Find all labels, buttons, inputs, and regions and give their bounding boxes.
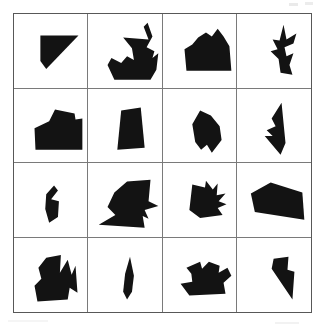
shape-r2c4-svg [237, 89, 311, 163]
shape-right-triangle-wedge [40, 36, 78, 69]
shape-r1c3-svg [163, 14, 236, 88]
shape-spiky-jagged-blob [189, 181, 226, 218]
shape-downward-dart-spike [264, 102, 285, 154]
grid-cell-r1c3 [163, 14, 237, 89]
grid-cell-r4c3 [163, 238, 237, 313]
scan-artifact-bottom-right [275, 322, 299, 324]
shape-grid-plate [13, 13, 312, 313]
shape-narrow-trapezoid [118, 107, 145, 149]
grid-cell-r3c1 [14, 163, 88, 238]
grid-cell-r4c2 [88, 238, 162, 313]
shape-r1c1-svg [14, 14, 87, 88]
shape-descending-stepped-wedge [271, 256, 294, 299]
shape-r4c3-svg [163, 238, 236, 313]
grid-cell-r1c2 [88, 14, 162, 89]
shape-angular-leaf-shield [192, 110, 221, 152]
figure-root [0, 0, 323, 329]
shape-bent-comma [45, 186, 59, 223]
shape-sailboat-zigzag [108, 23, 159, 80]
grid-cell-r2c1 [14, 89, 88, 164]
scan-artifact-top-right-1 [289, 3, 298, 6]
scan-artifact-top-right-2 [305, 2, 313, 5]
grid-cell-r3c2 [88, 163, 162, 238]
shape-thin-feather-blade [123, 256, 134, 299]
grid-cell-r4c1 [14, 238, 88, 313]
shape-tilted-quadrilateral [251, 183, 304, 220]
grid-cell-r3c3 [163, 163, 237, 238]
shape-house-mountain-pentagon [184, 29, 231, 71]
shape-r3c3-svg [163, 163, 236, 237]
shape-grid [14, 14, 311, 312]
shape-vertical-arrow-bolt [270, 25, 296, 75]
shape-r1c2-svg [88, 14, 161, 88]
grid-cell-r4c4 [237, 238, 311, 313]
shape-r2c3-svg [163, 89, 236, 163]
grid-cell-r1c4 [237, 14, 311, 89]
shape-r3c2-svg [88, 163, 161, 237]
shape-r3c4-svg [237, 163, 311, 237]
shape-r4c1-svg [14, 238, 87, 313]
shape-bird-hook-blob [180, 261, 231, 295]
shape-r2c2-svg [88, 89, 161, 163]
shape-r1c4-svg [237, 14, 311, 88]
shape-r3c1-svg [14, 163, 87, 237]
shape-r4c4-svg [237, 238, 311, 313]
grid-cell-r3c4 [237, 163, 311, 238]
grid-cell-r2c4 [237, 89, 311, 164]
shape-r4c2-svg [88, 238, 161, 313]
shape-r2c1-svg [14, 89, 87, 163]
shape-large-angular-blob-with-tail [99, 180, 159, 228]
shape-zigzag-m-blob [35, 254, 78, 301]
grid-cell-r2c3 [163, 89, 237, 164]
shape-notched-block [35, 109, 83, 149]
grid-cell-r1c1 [14, 14, 88, 89]
scan-artifact-bottom-left [8, 320, 48, 322]
grid-cell-r2c2 [88, 89, 162, 164]
